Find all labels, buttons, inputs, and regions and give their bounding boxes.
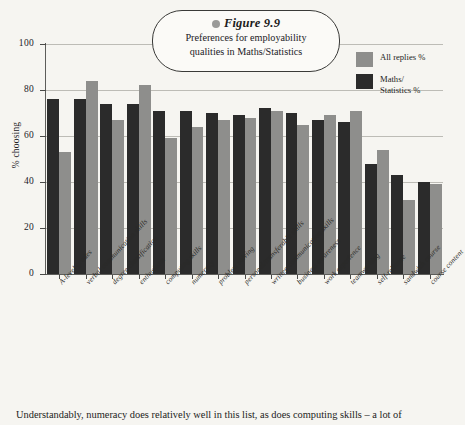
bullet-dot-icon	[212, 20, 220, 28]
y-axis-tick	[40, 90, 46, 91]
legend-entry-all-replies: All replies %	[356, 52, 456, 67]
y-axis-tick	[40, 44, 46, 45]
y-axis-tick	[40, 274, 46, 275]
figure-subtitle-line2: qualities in Maths/Statistics	[153, 45, 339, 59]
legend-entry-maths-statistics: Maths/ Statistics %	[356, 74, 456, 95]
legend-swatch-all-replies	[356, 52, 373, 67]
legend-label-maths-statistics: Maths/ Statistics %	[380, 74, 420, 95]
legend-swatch-maths-statistics	[356, 74, 373, 89]
figure-callout: Figure 9.9 Preferences for employability…	[152, 10, 340, 72]
y-axis-tick	[40, 228, 46, 229]
y-axis-tick	[40, 182, 46, 183]
y-axis-tick	[40, 136, 46, 137]
body-caption: Understandably, numeracy does relatively…	[16, 408, 448, 420]
figure-label: Figure 9.9	[224, 16, 280, 30]
figure-subtitle-line1: Preferences for employability	[153, 31, 339, 45]
legend-label-maths-line2: Statistics %	[380, 85, 420, 96]
y-axis-tick-label: 0	[8, 268, 34, 278]
legend-label-all-replies: All replies %	[380, 52, 425, 63]
y-axis-tick-label: 100	[8, 38, 34, 48]
y-axis-tick-label: 20	[8, 222, 34, 232]
legend: All replies % Maths/ Statistics %	[356, 52, 456, 102]
y-axis-tick-label: 80	[8, 84, 34, 94]
figure-label-line: Figure 9.9	[153, 16, 339, 31]
legend-label-maths-line1: Maths/	[380, 74, 420, 85]
y-axis-title: % choosing	[11, 102, 21, 188]
